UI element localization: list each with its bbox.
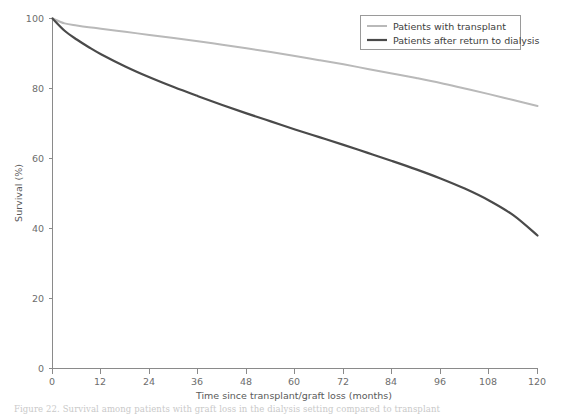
- x-tick-label-0: 0: [49, 376, 55, 387]
- y-tick-label-80: 80: [32, 83, 44, 94]
- x-tick-label-84: 84: [385, 376, 397, 387]
- x-tick-label-36: 36: [191, 376, 203, 387]
- x-tick-label-108: 108: [479, 376, 497, 387]
- x-tick-label-72: 72: [337, 376, 349, 387]
- chart-legend: Patients with transplant Patients after …: [361, 16, 540, 50]
- y-tick-label-20: 20: [32, 293, 44, 304]
- x-axis-title: Time since transplant/graft loss (months…: [195, 390, 392, 401]
- y-tick-label-60: 60: [32, 153, 44, 164]
- y-axis-ticks: 100 80 60 40 20 0: [26, 13, 53, 374]
- x-axis-ticks: 0 12 24 36 48 60 72 84 96 108 120: [49, 369, 546, 388]
- figure-caption: Figure 22. Survival among patients with …: [14, 404, 440, 414]
- survival-curve-chart: 100 80 60 40 20 0 0 12 24 36 48 60: [0, 0, 564, 416]
- legend-label-transplant: Patients with transplant: [393, 21, 506, 32]
- y-tick-label-40: 40: [32, 223, 44, 234]
- x-tick-label-48: 48: [240, 376, 252, 387]
- x-tick-label-96: 96: [434, 376, 446, 387]
- x-tick-label-60: 60: [288, 376, 300, 387]
- legend-label-dialysis: Patients after return to dialysis: [393, 35, 540, 46]
- y-tick-label-0: 0: [38, 363, 44, 374]
- y-axis-title: Survival (%): [13, 164, 24, 222]
- figure-container: 100 80 60 40 20 0 0 12 24 36 48 60: [0, 0, 564, 416]
- y-tick-label-100: 100: [26, 13, 44, 24]
- x-tick-label-24: 24: [143, 376, 155, 387]
- plot-area: [52, 18, 537, 368]
- x-tick-label-12: 12: [94, 376, 106, 387]
- x-tick-label-120: 120: [528, 376, 546, 387]
